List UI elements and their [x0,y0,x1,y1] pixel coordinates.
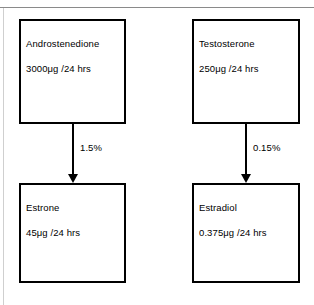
node-estradiol-text: Estradiol 0.375μg /24 hrs [199,189,295,252]
node-estrone-text: Estrone 45μg /24 hrs [26,189,121,252]
node-testosterone: Testosterone 250μg /24 hrs [192,19,300,124]
node-estrone-title: Estrone [26,202,121,215]
node-estradiol-value: 0.375μg /24 hrs [199,227,295,240]
node-androstenedione-title: Androstenedione [26,38,121,51]
node-androstenedione-value: 3000μg /24 hrs [26,63,121,76]
arrow-shaft [245,124,247,175]
edge-label-androstenedione-to-estrone: 1.5% [80,142,102,153]
node-estradiol: Estradiol 0.375μg /24 hrs [192,183,300,283]
conversion-diagram: Androstenedione 3000μg /24 hrs Testoster… [0,0,314,305]
top-divider-rule [0,7,314,8]
arrowhead-icon [68,174,78,183]
node-testosterone-value: 250μg /24 hrs [199,63,295,76]
node-androstenedione-text: Androstenedione 3000μg /24 hrs [26,25,121,88]
node-estradiol-title: Estradiol [199,202,295,215]
arrowhead-icon [241,174,251,183]
node-androstenedione: Androstenedione 3000μg /24 hrs [19,19,126,124]
node-estrone: Estrone 45μg /24 hrs [19,183,126,283]
arrow-shaft [72,124,74,175]
left-divider-rule [3,8,4,305]
edge-label-testosterone-to-estradiol: 0.15% [253,142,280,153]
node-estrone-value: 45μg /24 hrs [26,227,121,240]
node-testosterone-title: Testosterone [199,38,295,51]
node-testosterone-text: Testosterone 250μg /24 hrs [199,25,295,88]
